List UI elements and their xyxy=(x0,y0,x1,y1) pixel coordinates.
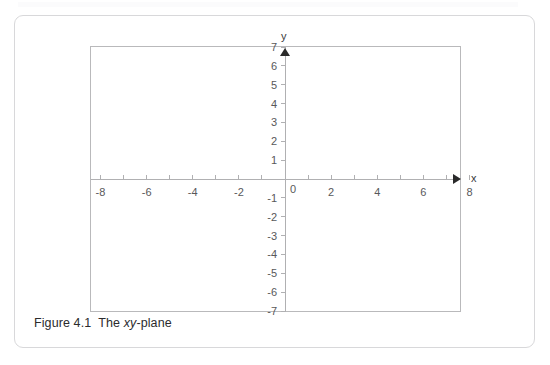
x-tick-mark xyxy=(238,175,239,180)
x-tick-mark xyxy=(308,175,309,180)
x-axis-arrow-icon xyxy=(453,174,461,184)
caption-figure-number: Figure 4.1 xyxy=(34,316,91,330)
scan-artifact xyxy=(18,2,518,7)
x-tick-mark xyxy=(377,175,378,180)
y-tick-mark xyxy=(281,292,286,293)
y-tick-label: 2 xyxy=(91,136,277,147)
y-tick-label: 6 xyxy=(91,60,277,71)
x-tick-label: 2 xyxy=(328,187,334,198)
x-tick-mark xyxy=(469,175,470,180)
x-tick-mark xyxy=(423,175,424,180)
x-tick-label: 4 xyxy=(374,187,380,198)
x-axis-label: x xyxy=(471,173,477,184)
y-tick-label: -4 xyxy=(91,249,277,260)
y-tick-label: 7 xyxy=(91,42,277,53)
y-tick-mark xyxy=(281,273,286,274)
y-tick-mark xyxy=(281,122,286,123)
plot-frame: x y 0 -8-6-4-22468 7654321-1-2-3-4-5-6-7 xyxy=(90,46,461,312)
y-tick-label: -5 xyxy=(91,268,277,279)
y-tick-mark xyxy=(281,216,286,217)
y-tick-mark xyxy=(281,141,286,142)
x-tick-mark xyxy=(192,175,193,180)
y-axis-label: y xyxy=(281,31,287,42)
caption-suffix: -plane xyxy=(136,316,171,330)
x-tick-label: 8 xyxy=(466,187,472,198)
x-tick-mark xyxy=(285,175,286,180)
x-tick-mark xyxy=(100,175,101,180)
x-tick-mark xyxy=(215,175,216,180)
figure-card: x y 0 -8-6-4-22468 7654321-1-2-3-4-5-6-7… xyxy=(14,15,535,348)
y-tick-mark xyxy=(281,197,286,198)
y-tick-mark xyxy=(281,254,286,255)
x-tick-mark xyxy=(123,175,124,180)
x-tick-mark xyxy=(169,175,170,180)
y-tick-label: 5 xyxy=(91,79,277,90)
figure-caption: Figure 4.1The xy-plane xyxy=(34,316,172,330)
y-axis-arrow-icon xyxy=(280,48,290,56)
y-tick-mark xyxy=(281,160,286,161)
y-tick-label: 3 xyxy=(91,117,277,128)
y-tick-mark xyxy=(281,65,286,66)
x-tick-mark xyxy=(446,175,447,180)
x-tick-mark xyxy=(261,175,262,180)
y-tick-mark xyxy=(281,47,286,48)
y-tick-label: -3 xyxy=(91,230,277,241)
x-tick-mark xyxy=(331,175,332,180)
y-tick-label: -1 xyxy=(91,192,277,203)
x-tick-mark xyxy=(354,175,355,180)
x-tick-mark xyxy=(400,175,401,180)
x-tick-label: 6 xyxy=(420,187,426,198)
x-tick-mark xyxy=(146,175,147,180)
y-tick-label: 4 xyxy=(91,98,277,109)
y-tick-label: 1 xyxy=(91,155,277,166)
y-tick-label: -6 xyxy=(91,287,277,298)
origin-label: 0 xyxy=(290,184,296,195)
y-tick-mark xyxy=(281,84,286,85)
y-tick-mark xyxy=(281,235,286,236)
y-tick-label: -2 xyxy=(91,211,277,222)
caption-article: The xyxy=(98,316,120,330)
caption-italic-term: xy xyxy=(124,316,137,330)
y-tick-mark xyxy=(281,311,286,312)
y-tick-mark xyxy=(281,103,286,104)
y-tick-label: -7 xyxy=(91,306,277,317)
